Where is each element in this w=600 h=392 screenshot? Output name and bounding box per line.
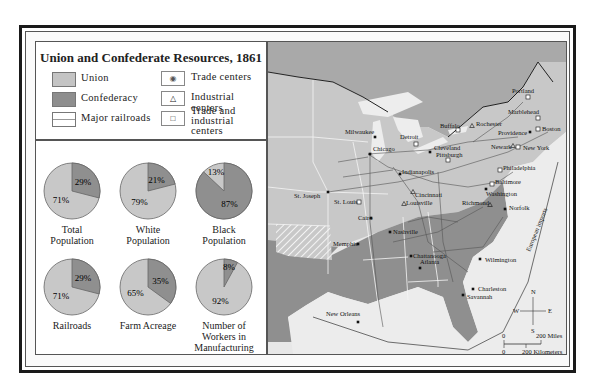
legend-confederacy-label: Confederacy <box>81 92 138 103</box>
city-louisville: Louisville <box>402 199 433 206</box>
pie-chart-6: 8%92% <box>189 252 259 322</box>
city-label: Savannah <box>467 293 493 300</box>
legend-panel: Union and Confederate Resources, 1861 Un… <box>35 41 267 140</box>
city-cairo: Cairo <box>358 214 372 221</box>
city-label: Charleston <box>478 285 507 292</box>
trade-center-icon <box>479 258 482 261</box>
city-label: Washington <box>486 190 518 197</box>
city-label: Cairo <box>358 214 372 221</box>
city-nashville: Nashville <box>389 228 418 235</box>
trade-center-icon: ◉ <box>161 71 185 86</box>
map-panel: European imports MilwaukeeChicagoDetroit… <box>267 41 567 355</box>
pie-label-union: 92% <box>212 296 229 306</box>
trade-industrial-center-icon <box>490 182 494 186</box>
pie-chart-5: 35%65% <box>113 252 183 322</box>
legend-trade-industrial-line1: Trade and industrial <box>191 106 266 126</box>
pie-chart-title: TotalPopulation <box>34 224 110 246</box>
city-st-louis: St. Louis <box>334 198 361 205</box>
trade-industrial-center-icon: □ <box>161 111 185 126</box>
city-label: New Orleans <box>326 310 361 317</box>
trade-center-icon <box>389 231 392 234</box>
city-label: Indianapolis <box>402 168 435 175</box>
city-label: Memphis <box>333 240 358 247</box>
city-washington: Washington <box>485 188 518 197</box>
union-swatch <box>52 72 76 87</box>
figure-inner: Union and Confederate Resources, 1861 Un… <box>25 31 570 367</box>
trade-center-icon <box>410 255 413 258</box>
trade-industrial-center-icon <box>414 142 418 146</box>
figure-title: Union and Confederate Resources, 1861 <box>36 50 266 66</box>
pie-charts-panel: 29%71%TotalPopulation21%79%WhitePopulati… <box>35 140 267 355</box>
compass-e: E <box>548 307 552 314</box>
city-label: Norfolk <box>509 204 530 211</box>
city-label: Wilmington <box>485 256 517 263</box>
pie-label-confederacy: 8% <box>223 262 236 272</box>
railroad-swatch <box>52 112 76 127</box>
trade-center-icon <box>429 151 432 154</box>
trade-center-icon <box>529 131 532 134</box>
city-label: New York <box>523 144 550 151</box>
legend-railroad-label: Major railroads <box>81 112 151 123</box>
city-memphis: Memphis <box>333 240 359 247</box>
trade-center-icon <box>419 267 422 270</box>
legend-union-label: Union <box>81 72 109 83</box>
city-label: Milwaukee <box>345 128 374 135</box>
scale-miles-label: 200 Miles <box>536 332 563 339</box>
pie-chart-title: WhitePopulation <box>110 224 186 246</box>
legend-trade-label: Trade centers <box>191 71 251 82</box>
city-label: Richmond <box>462 199 490 206</box>
pie-label-union: 71% <box>53 195 70 205</box>
figure-frame: Union and Confederate Resources, 1861 Un… <box>19 25 576 373</box>
trade-center-icon <box>369 153 372 156</box>
compass-w: W <box>513 307 520 314</box>
legend-trade-industrial-line2: centers <box>191 126 266 136</box>
city-label: Rochester <box>476 120 503 127</box>
trade-industrial-center-icon <box>446 158 450 162</box>
pie-chart-title: BlackPopulation <box>186 224 262 246</box>
map-svg: European imports MilwaukeeChicagoDetroit… <box>268 42 566 354</box>
city-baltimore: Baltimore <box>490 178 521 186</box>
city-label: Nashville <box>393 228 418 235</box>
pie-chart-title: Number ofWorkers inManufacturing <box>186 320 262 353</box>
city-philadelphia: Philadelphia <box>498 164 536 172</box>
scale-km-zero: 0 <box>502 348 505 354</box>
trade-industrial-center-icon <box>357 200 361 204</box>
pie-chart-2: 21%79% <box>113 156 183 226</box>
trade-center-icon <box>327 191 330 194</box>
pie-label-confederacy: 29% <box>75 273 92 283</box>
pie-label-confederacy: 29% <box>75 177 92 187</box>
trade-center-icon <box>357 321 360 324</box>
trade-industrial-center-icon <box>536 127 540 131</box>
city-label: Marblehead <box>508 108 540 115</box>
trade-industrial-center-icon <box>516 145 520 149</box>
pie-label-confederacy: 21% <box>148 175 165 185</box>
city-label: Atlanta <box>420 258 439 265</box>
city-label: Detroit <box>400 133 419 140</box>
pie-chart-1: 29%71% <box>37 156 107 226</box>
trade-center-icon <box>472 288 475 291</box>
city-label: Cleveland <box>434 144 461 151</box>
scale-miles-zero: 0 <box>502 332 505 339</box>
trade-industrial-center-icon <box>536 116 540 120</box>
trade-center-icon <box>399 173 402 176</box>
pie-chart-4: 29%71% <box>37 252 107 322</box>
pie-label-union: 65% <box>127 288 144 298</box>
city-richmond: Richmond <box>462 199 492 207</box>
trade-center-icon <box>462 294 465 297</box>
trade-industrial-center-icon <box>526 95 530 99</box>
city-label: Chicago <box>373 145 395 152</box>
city-cincinnati: Cincinnati <box>411 190 443 199</box>
city-label: St. Joseph <box>294 192 321 199</box>
city-wilmington: Wilmington <box>479 256 517 263</box>
pie-label-union: 71% <box>53 291 70 301</box>
pie-label-union: 13% <box>208 167 225 177</box>
city-savannah: Savannah <box>462 293 493 300</box>
city-label: Cincinnati <box>415 191 442 198</box>
city-label: St. Louis <box>334 198 358 205</box>
city-label: Providence <box>498 129 527 136</box>
city-label: Philadelphia <box>503 164 536 171</box>
pie-label-union: 79% <box>131 197 148 207</box>
legend-trade-industrial-label: Trade and industrial centers <box>191 106 266 136</box>
compass-n: N <box>531 288 536 295</box>
city-label: Boston <box>542 125 561 132</box>
